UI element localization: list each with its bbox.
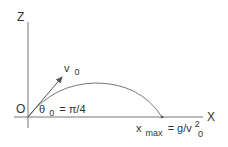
velocity-subscript: 0 [75,67,80,77]
projectile-diagram: Z X O v 0 θ 0 = π/4 x max = g/v 2 0 [0,0,228,147]
range-symbol: x [136,122,142,134]
range-subscript-2: 0 [198,129,203,139]
range-superscript: 2 [195,119,200,129]
angle-value: = π/4 [59,103,85,115]
range-label: x max = g/v 2 0 [136,117,203,139]
angle-subscript: 0 [49,108,54,118]
velocity-label: v 0 [64,62,80,77]
angle-symbol: θ [39,103,45,115]
x-axis-label: X [207,110,215,124]
angle-label: θ 0 = π/4 [39,103,86,118]
velocity-symbol: v [64,62,70,74]
range-subscript: max [146,128,164,138]
origin-label: O [16,102,25,116]
landing-point [161,116,164,119]
z-axis-label: Z [17,10,24,24]
range-equals: = g/v [168,122,193,134]
